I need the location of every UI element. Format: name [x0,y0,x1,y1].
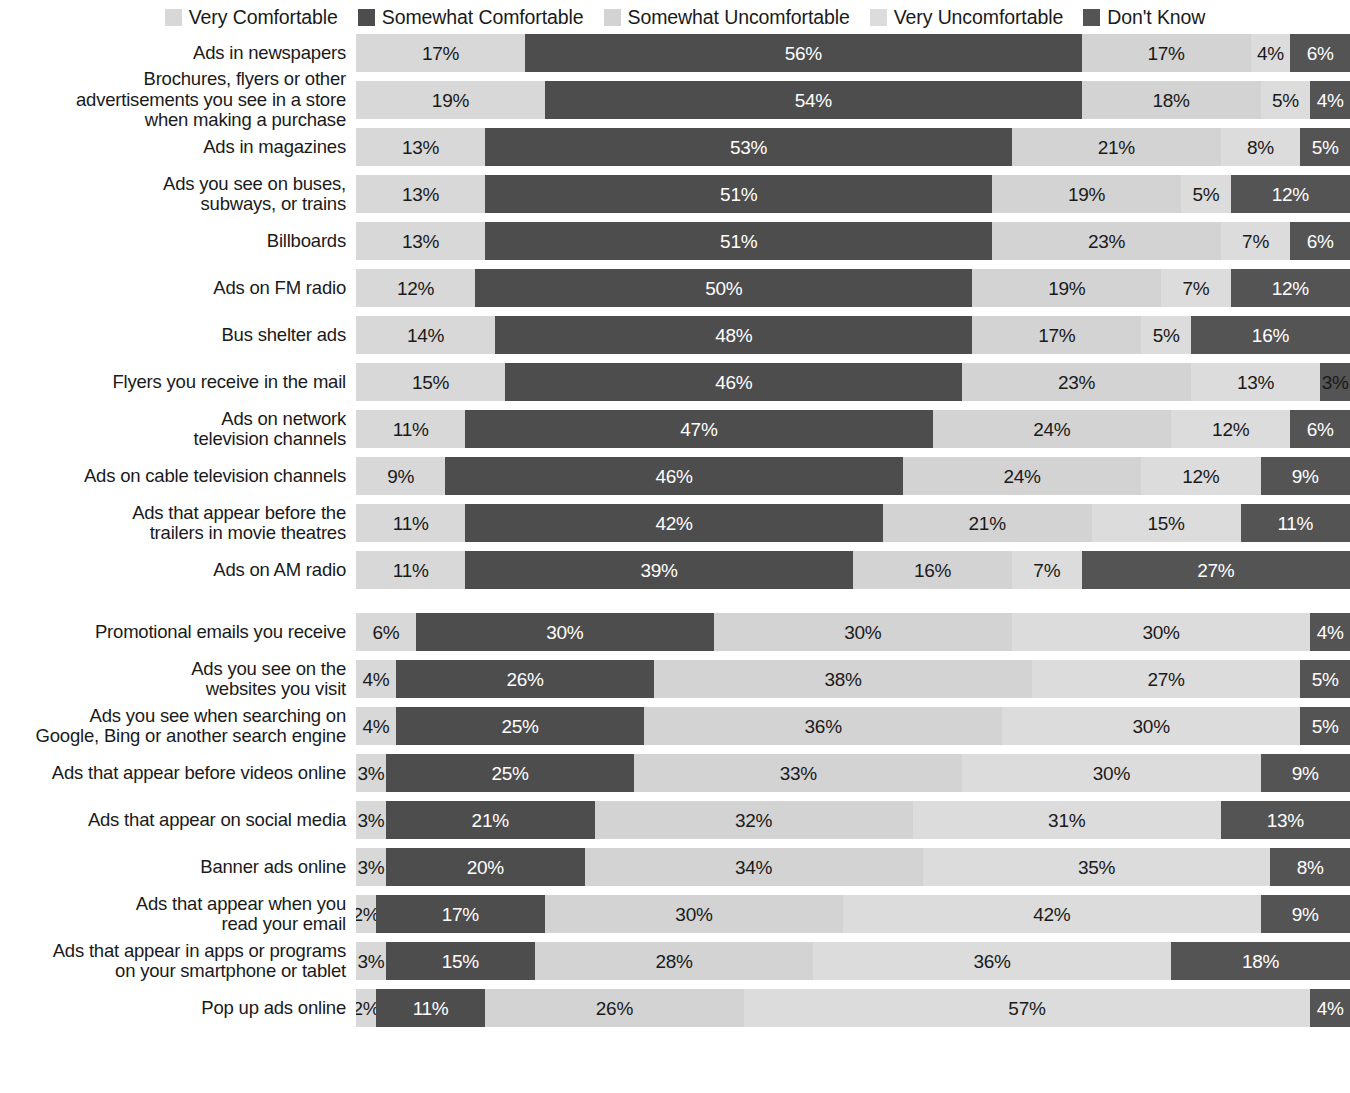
segment-value-label: 4% [362,670,389,689]
category-label: Ads on cable television channels [0,466,356,487]
legend-item-dont_know[interactable]: Don't Know [1083,8,1205,27]
stacked-bar: 17%56%17%4%6% [356,34,1350,72]
bar-segment: 5% [1300,707,1350,745]
bar-segment: 20% [386,848,585,886]
segment-value-label: 11% [1277,514,1313,533]
bar-segment: 7% [1161,269,1231,307]
segment-value-label: 25% [501,717,538,736]
bar-segment: 46% [505,363,962,401]
segment-value-label: 33% [780,764,817,783]
bar-segment: 18% [1082,81,1261,119]
segment-value-label: 6% [1307,44,1334,63]
legend-item-somewhat_uncomfortable[interactable]: Somewhat Uncomfortable [604,8,850,27]
bar-segment: 17% [376,895,545,933]
bar-segment: 12% [1141,457,1260,495]
stacked-bar: 14%48%17%5%16% [356,316,1350,354]
bar-segment: 4% [1310,989,1350,1027]
bar-segment: 42% [843,895,1260,933]
segment-value-label: 16% [914,561,951,580]
segment-value-label: 23% [1058,373,1095,392]
bar-segment: 47% [465,410,932,448]
segment-value-label: 21% [472,811,509,830]
segment-value-label: 5% [1192,185,1219,204]
bar-segment: 12% [1231,175,1350,213]
stacked-bar: 3%20%34%35%8% [356,848,1350,886]
bar-segment: 48% [495,316,972,354]
chart-row: Ads in newspapers17%56%17%4%6% [0,34,1350,72]
chart-row: Promotional emails you receive6%30%30%30… [0,613,1350,651]
segment-value-label: 17% [422,44,459,63]
stacked-bar: 4%26%38%27%5% [356,660,1350,698]
bar-segment: 36% [644,707,1002,745]
segment-value-label: 9% [387,467,414,486]
bar-segment: 2% [356,895,376,933]
bar-segment: 30% [545,895,843,933]
chart-row: Ads on FM radio12%50%19%7%12% [0,269,1350,307]
chart-row: Brochures, flyers or other advertisement… [0,81,1350,119]
bar-segment: 7% [1221,222,1291,260]
category-label: Ads that appear on social media [0,810,356,831]
segment-value-label: 5% [1272,91,1299,110]
category-label: Ads on FM radio [0,278,356,299]
chart-row: Pop up ads online2%11%26%57%4% [0,989,1350,1027]
chart-row: Ads you see on buses, subways, or trains… [0,175,1350,213]
segment-value-label: 7% [1182,279,1209,298]
category-label: Ads on network television channels [0,409,356,450]
category-label: Ads that appear in apps or programs on y… [0,941,356,982]
stacked-bar: 13%51%23%7%6% [356,222,1350,260]
bar-segment: 13% [356,222,485,260]
segment-value-label: 17% [1038,326,1075,345]
bar-segment: 8% [1221,128,1301,166]
chart-row: Ads that appear before the trailers in m… [0,504,1350,542]
segment-value-label: 3% [1322,373,1349,392]
bar-segment: 12% [356,269,475,307]
stacked-bar: 15%46%23%13%3% [356,363,1350,401]
chart-plot-area: Ads in newspapers17%56%17%4%6%Brochures,… [0,34,1350,1027]
segment-value-label: 5% [1312,717,1339,736]
segment-value-label: 5% [1312,670,1339,689]
segment-value-label: 4% [1257,44,1284,63]
segment-value-label: 6% [1307,420,1334,439]
bar-segment: 32% [595,801,913,839]
bar-segment: 6% [1290,34,1350,72]
segment-value-label: 3% [357,764,384,783]
bar-segment: 11% [376,989,485,1027]
bar-segment: 2% [356,989,376,1027]
chart-row: Ads you see when searching on Google, Bi… [0,707,1350,745]
bar-segment: 13% [356,175,485,213]
legend-label-very_uncomfortable: Very Uncomfortable [894,8,1063,27]
bar-segment: 31% [913,801,1221,839]
legend-swatch-very_uncomfortable [870,9,887,26]
category-label: Ads you see on buses, subways, or trains [0,174,356,215]
chart-row: Bus shelter ads14%48%17%5%16% [0,316,1350,354]
segment-value-label: 4% [362,717,389,736]
segment-value-label: 25% [491,764,528,783]
segment-value-label: 11% [393,420,429,439]
stacked-bar: 3%25%33%30%9% [356,754,1350,792]
legend-item-somewhat_comfortable[interactable]: Somewhat Comfortable [358,8,584,27]
bar-segment: 28% [535,942,813,980]
legend-swatch-very_comfortable [165,9,182,26]
chart-row: Ads on cable television channels9%46%24%… [0,457,1350,495]
bar-segment: 8% [1270,848,1350,886]
bar-segment: 16% [1191,316,1350,354]
legend-item-very_comfortable[interactable]: Very Comfortable [165,8,338,27]
segment-value-label: 48% [715,326,752,345]
segment-value-label: 32% [735,811,772,830]
segment-value-label: 26% [506,670,543,689]
bar-segment: 5% [1261,81,1311,119]
segment-value-label: 39% [641,561,678,580]
segment-value-label: 53% [730,138,767,157]
category-label: Pop up ads online [0,998,356,1019]
bar-segment: 3% [356,942,386,980]
bar-segment: 12% [1171,410,1290,448]
legend-swatch-somewhat_comfortable [358,9,375,26]
stacked-bar: 11%47%24%12%6% [356,410,1350,448]
segment-value-label: 35% [1078,858,1115,877]
segment-value-label: 27% [1148,670,1185,689]
legend-item-very_uncomfortable[interactable]: Very Uncomfortable [870,8,1063,27]
segment-value-label: 5% [1153,326,1180,345]
bar-segment: 13% [356,128,485,166]
bar-segment: 4% [1251,34,1291,72]
segment-value-label: 12% [1212,420,1249,439]
